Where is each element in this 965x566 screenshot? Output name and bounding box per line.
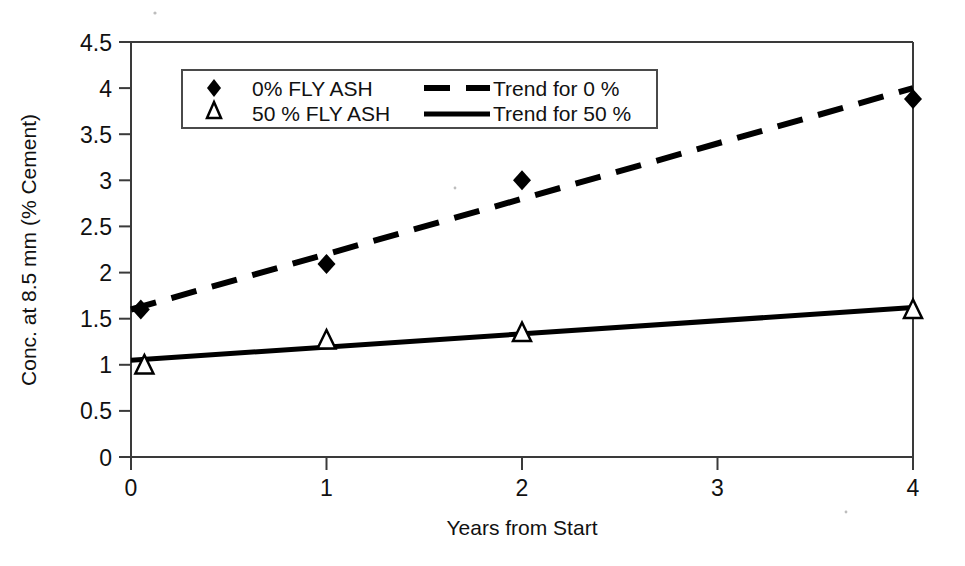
y-tick-label-2p5: 2.5 [80,214,112,240]
y-tick-label-3: 3 [99,168,112,194]
scan-speck-mid [454,187,457,190]
y-axis-tick-labels: 0 0.5 1 1.5 2 2.5 3 3.5 4 4.5 [80,30,112,471]
chart-svg: 0 0.5 1 1.5 2 2.5 3 3.5 4 4.5 0 1 2 3 4 [0,0,965,566]
legend-label-0-percent: 0% FLY ASH [252,77,373,100]
scan-speck-top [153,11,156,14]
legend-label-50-percent: 50 % FLY ASH [252,102,390,125]
y-tick-label-1p5: 1.5 [80,306,112,332]
x-axis-ticks [131,457,913,470]
y-tick-label-1: 1 [99,352,112,378]
x-axis-title: Years from Start [447,516,598,539]
x-tick-label-2: 2 [516,475,529,501]
series-50-percent-markers [135,300,922,374]
y-axis-title: Conc. at 8.5 mm (% Cement) [17,114,40,386]
legend-label-trend-0: Trend for 0 % [493,77,619,100]
data-point-diamond-1 [318,254,336,274]
x-tick-label-4: 4 [907,475,920,501]
x-axis-tick-labels: 0 1 2 3 4 [125,475,920,501]
data-point-diamond-2 [513,170,531,190]
x-tick-label-1: 1 [320,475,333,501]
data-point-triangle-1 [318,330,336,349]
y-tick-label-4p5: 4.5 [80,30,112,56]
x-tick-label-3: 3 [711,475,724,501]
y-tick-label-2: 2 [99,260,112,286]
legend-label-trend-50: Trend for 50 % [493,102,631,125]
y-tick-label-4: 4 [99,76,112,102]
y-axis-ticks [119,42,131,457]
x-tick-label-0: 0 [125,475,138,501]
y-tick-label-0: 0 [99,445,112,471]
chart-legend: 0% FLY ASH Trend for 0 % 50 % FLY ASH Tr… [182,70,657,128]
chart-figure: 0 0.5 1 1.5 2 2.5 3 3.5 4 4.5 0 1 2 3 4 [0,0,965,566]
scan-speck-lower [845,511,848,514]
y-tick-label-0p5: 0.5 [80,398,112,424]
y-tick-label-3p5: 3.5 [80,122,112,148]
